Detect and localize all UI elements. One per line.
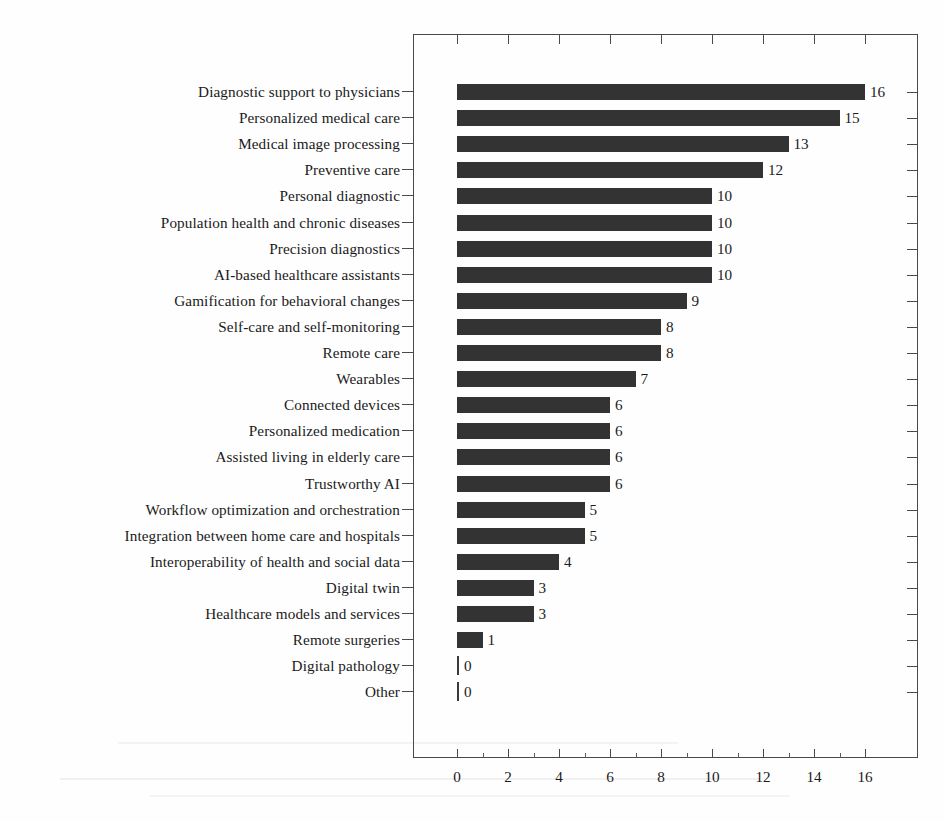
category-label: Integration between home care and hospit… — [125, 523, 400, 549]
x-axis-tick-label: 16 — [857, 768, 872, 786]
y-axis-tick-right — [907, 301, 918, 302]
bar — [457, 606, 534, 622]
y-axis-tick — [402, 195, 413, 196]
x-axis-tick — [661, 749, 662, 758]
bar — [457, 476, 610, 492]
bar-row: Diagnostic support to physicians16 — [0, 79, 944, 105]
category-label: Assisted living in elderly care — [216, 444, 400, 470]
x-axis-tick — [457, 749, 458, 758]
y-axis-tick-right — [907, 562, 918, 563]
y-axis-tick-right — [907, 118, 918, 119]
bar-row: Medical image processing13 — [0, 131, 944, 157]
y-axis-tick — [402, 483, 413, 484]
y-axis-tick — [402, 535, 413, 536]
x-axis-tick-top — [712, 35, 713, 44]
bar-row: Wearables7 — [0, 366, 944, 392]
y-axis-tick — [402, 378, 413, 379]
bar-value-label: 16 — [865, 79, 885, 105]
x-axis-tick-label: 14 — [806, 768, 821, 786]
x-axis-tick-top — [763, 35, 764, 44]
category-label: Workflow optimization and orchestration — [146, 497, 400, 523]
category-label: Remote surgeries — [293, 627, 400, 653]
x-axis-minor-tick — [789, 753, 790, 758]
bar — [457, 449, 610, 465]
y-axis-tick — [402, 143, 413, 144]
x-axis-tick-label: 8 — [657, 768, 665, 786]
bar-row: Remote care8 — [0, 340, 944, 366]
x-axis-tick — [763, 749, 764, 758]
x-axis-minor-tick — [738, 753, 739, 758]
category-label: Population health and chronic diseases — [161, 210, 400, 236]
bar — [457, 241, 712, 257]
bar-row: Digital pathology0 — [0, 653, 944, 679]
bar — [457, 319, 661, 335]
y-axis-tick — [402, 691, 413, 692]
y-axis-tick — [402, 222, 413, 223]
bar-value-label: 6 — [610, 392, 623, 418]
bar — [457, 423, 610, 439]
bar-row: Personalized medication6 — [0, 418, 944, 444]
y-axis-tick-right — [907, 640, 918, 641]
bar-row: Connected devices6 — [0, 392, 944, 418]
y-axis-tick — [402, 587, 413, 588]
bar-row: Workflow optimization and orchestration5 — [0, 497, 944, 523]
y-axis-tick — [402, 274, 413, 275]
category-label: Self-care and self-monitoring — [218, 314, 400, 340]
bar — [457, 110, 840, 126]
category-label: Preventive care — [304, 157, 400, 183]
bar — [457, 293, 687, 309]
bar-value-label: 10 — [712, 183, 732, 209]
bar-value-label: 5 — [585, 523, 598, 549]
category-label: Personal diagnostic — [280, 183, 400, 209]
x-axis-minor-tick — [840, 753, 841, 758]
y-axis-tick — [402, 326, 413, 327]
category-label: Digital pathology — [292, 653, 400, 679]
bar-value-label: 3 — [534, 601, 547, 627]
bar-value-label: 6 — [610, 418, 623, 444]
y-axis-tick-right — [907, 327, 918, 328]
x-axis-minor-tick — [534, 753, 535, 758]
x-axis-tick-label: 4 — [555, 768, 563, 786]
category-label: Other — [365, 679, 400, 705]
x-axis-tick — [865, 749, 866, 758]
bar — [457, 554, 559, 570]
x-axis-tick — [610, 749, 611, 758]
bar-value-label: 9 — [687, 288, 700, 314]
y-axis-tick-right — [907, 536, 918, 537]
bar-row: Personalized medical care15 — [0, 105, 944, 131]
y-axis-tick-right — [907, 353, 918, 354]
x-axis-minor-tick — [687, 753, 688, 758]
category-label: Diagnostic support to physicians — [198, 79, 400, 105]
y-axis-tick — [402, 561, 413, 562]
y-axis-tick-right — [907, 170, 918, 171]
x-axis-tick-top — [457, 35, 458, 44]
category-label: AI-based healthcare assistants — [214, 262, 400, 288]
bar-value-label: 6 — [610, 471, 623, 497]
y-axis-tick-right — [907, 144, 918, 145]
bar-row: Healthcare models and services3 — [0, 601, 944, 627]
y-axis-tick — [402, 430, 413, 431]
y-axis-tick-right — [907, 588, 918, 589]
x-axis-tick-top — [814, 35, 815, 44]
bar — [457, 580, 534, 596]
y-axis-tick — [402, 248, 413, 249]
y-axis-tick — [402, 91, 413, 92]
bar-value-label: 4 — [559, 549, 572, 575]
bar — [457, 345, 661, 361]
bar — [457, 632, 483, 648]
bar-row: Digital twin3 — [0, 575, 944, 601]
y-axis-tick — [402, 456, 413, 457]
bar — [457, 267, 712, 283]
y-axis-tick-right — [907, 510, 918, 511]
bar-row: AI-based healthcare assistants10 — [0, 262, 944, 288]
y-axis-tick — [402, 300, 413, 301]
bar-value-label: 0 — [459, 679, 472, 705]
bar — [457, 371, 636, 387]
bar-row: Remote surgeries1 — [0, 627, 944, 653]
x-axis-tick — [814, 749, 815, 758]
bar — [457, 215, 712, 231]
category-label: Remote care — [323, 340, 400, 366]
bar — [457, 84, 865, 100]
y-axis-tick-right — [907, 484, 918, 485]
bar-value-label: 10 — [712, 236, 732, 262]
